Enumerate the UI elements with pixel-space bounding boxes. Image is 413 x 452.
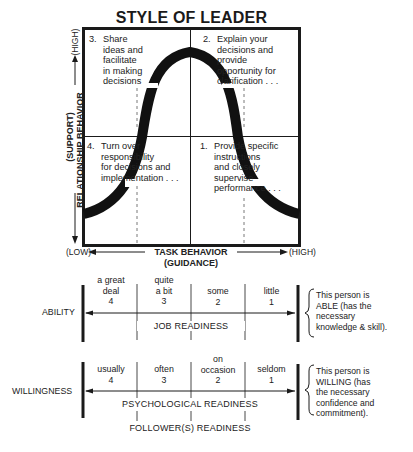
quadrant-text: Turn over responsibility for decisions a… (101, 141, 179, 183)
ability-level-2: some 2 (191, 286, 245, 307)
level-text: a great deal (85, 275, 137, 296)
level-text: often (137, 364, 191, 375)
x-axis-low: (LOW) (66, 247, 91, 257)
level-text: seldom (245, 364, 298, 375)
x-axis-label-task: TASK BEHAVIOR (145, 247, 237, 257)
y-axis-label-relationship: RELATIONSHIP BEHAVIOR (75, 40, 85, 260)
quadrant-text: Provide specific instructions and closel… (214, 141, 281, 194)
level-value: 4 (85, 375, 137, 386)
level-value: 3 (137, 296, 191, 307)
level-value: 2 (191, 297, 245, 308)
job-readiness-label: JOB READINESS (137, 321, 245, 331)
willingness-brace (305, 365, 314, 415)
x-axis-high: (HIGH) (289, 247, 316, 257)
level-text: quite a bit (137, 275, 191, 296)
psychological-readiness-label: PSYCHOLOGICAL READINESS (110, 399, 270, 409)
y-axis-label-support: (SUPPORT) (65, 27, 75, 247)
level-value: 4 (85, 296, 137, 307)
follower-readiness-label: FOLLOWER(S) READINESS (110, 423, 270, 433)
quadrant-4: 4. Turn over responsibility for decision… (87, 141, 92, 173)
quadrant-number: 2. (203, 34, 211, 45)
ability-note: This person is ABLE (has the necessary k… (316, 290, 387, 332)
y-axis-labels: (SUPPORT) (65, 27, 75, 247)
willingness-label: WILLINGNESS (12, 386, 72, 396)
y-axis-label-wrap: RELATIONSHIP BEHAVIOR (75, 40, 85, 260)
ability-brace (305, 289, 314, 337)
ability-level-1: little 1 (245, 286, 298, 307)
quadrant-number: 1. (200, 141, 208, 152)
level-text: usually (85, 364, 137, 375)
quadrant-3: 3. Share ideas and facilitate in making … (89, 34, 94, 66)
willingness-level-2: on occasion 2 (191, 354, 245, 386)
x-axis-label-guidance: (GUIDANCE) (145, 258, 237, 268)
level-value: 1 (245, 375, 298, 386)
level-value: 3 (137, 375, 191, 386)
level-text: some (191, 286, 245, 297)
willingness-note: This person is WILLING (has the necessar… (316, 366, 374, 419)
quadrant-2: 2. Explain your decisions and provide op… (203, 34, 208, 66)
level-text: little (245, 286, 298, 297)
willingness-level-4: usually 4 (85, 364, 137, 385)
ability-level-4: a great deal 4 (85, 275, 137, 307)
ability-label: ABILITY (42, 307, 75, 317)
willingness-level-3: often 3 (137, 364, 191, 385)
level-value: 1 (245, 297, 298, 308)
quadrant-number: 4. (87, 141, 95, 152)
y-axis-high: (HIGH) (70, 29, 80, 56)
level-text: on occasion (191, 354, 245, 375)
willingness-level-1: seldom 1 (245, 364, 298, 385)
quadrant-1: 1. Provide specific instructions and clo… (200, 141, 205, 173)
arrow-right-icon (280, 249, 288, 255)
ability-level-3: quite a bit 3 (137, 275, 191, 307)
level-value: 2 (191, 375, 245, 386)
quadrant-text: Explain your decisions and provide oppor… (217, 34, 278, 87)
quadrant-number: 3. (89, 34, 97, 45)
quadrant-text: Share ideas and facilitate in making dec… (103, 34, 143, 87)
